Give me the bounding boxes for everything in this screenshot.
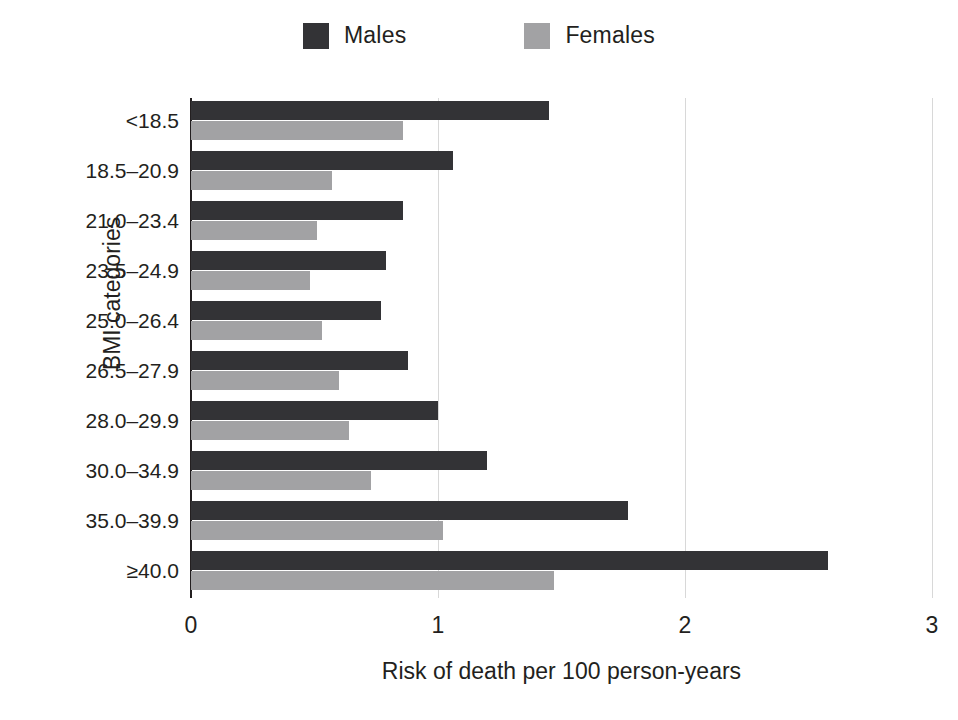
bar-males-6 <box>191 401 438 420</box>
y-tick-label-9: ≥40.0 <box>9 559 179 583</box>
bar-females-6 <box>191 421 349 440</box>
bar-males-4 <box>191 301 381 320</box>
bar-group <box>191 298 932 348</box>
bar-males-5 <box>191 351 408 370</box>
y-tick-label-3: 23.5–24.9 <box>9 259 179 283</box>
bar-group <box>191 348 932 398</box>
x-tick-label-0: 0 <box>161 612 221 639</box>
bar-group <box>191 498 932 548</box>
bar-group <box>191 398 932 448</box>
bar-group <box>191 448 932 498</box>
x-axis-title: Risk of death per 100 person-years <box>191 658 932 685</box>
bar-females-1 <box>191 171 332 190</box>
y-tick-label-7: 30.0–34.9 <box>9 459 179 483</box>
plot-area <box>191 98 932 598</box>
y-tick-label-6: 28.0–29.9 <box>9 409 179 433</box>
bar-group <box>191 98 932 148</box>
y-tick-label-0: <18.5 <box>9 109 179 133</box>
bar-males-7 <box>191 451 487 470</box>
bar-group <box>191 148 932 198</box>
y-tick-label-8: 35.0–39.9 <box>9 509 179 533</box>
bar-females-7 <box>191 471 371 490</box>
legend-label-males: Males <box>344 22 406 49</box>
bar-females-3 <box>191 271 310 290</box>
bar-females-2 <box>191 221 317 240</box>
bar-chart-figure: Males Females BMI categories <18.518.5–2… <box>0 0 958 720</box>
bar-females-5 <box>191 371 339 390</box>
y-tick-label-4: 25.0–26.4 <box>9 309 179 333</box>
bar-males-9 <box>191 551 828 570</box>
legend-item-females: Females <box>524 22 655 49</box>
y-tick-label-1: 18.5–20.9 <box>9 159 179 183</box>
x-tick-label-1: 1 <box>408 612 468 639</box>
x-tick-label-2: 2 <box>655 612 715 639</box>
x-tick-label-3: 3 <box>902 612 958 639</box>
chart-legend: Males Females <box>0 22 958 49</box>
bar-group <box>191 248 932 298</box>
bar-females-9 <box>191 571 554 590</box>
bar-males-3 <box>191 251 386 270</box>
y-tick-label-2: 21.0–23.4 <box>9 209 179 233</box>
bar-females-4 <box>191 321 322 340</box>
bar-group <box>191 548 932 598</box>
gridline-x-3 <box>932 98 933 598</box>
bar-males-0 <box>191 101 549 120</box>
bar-females-8 <box>191 521 443 540</box>
bar-males-1 <box>191 151 453 170</box>
legend-swatch-males-icon <box>303 23 329 49</box>
bar-males-2 <box>191 201 403 220</box>
legend-swatch-females-icon <box>524 23 550 49</box>
legend-item-males: Males <box>303 22 406 49</box>
y-tick-label-5: 26.5–27.9 <box>9 359 179 383</box>
bar-males-8 <box>191 501 628 520</box>
bar-group <box>191 198 932 248</box>
legend-label-females: Females <box>565 22 655 49</box>
bar-females-0 <box>191 121 403 140</box>
